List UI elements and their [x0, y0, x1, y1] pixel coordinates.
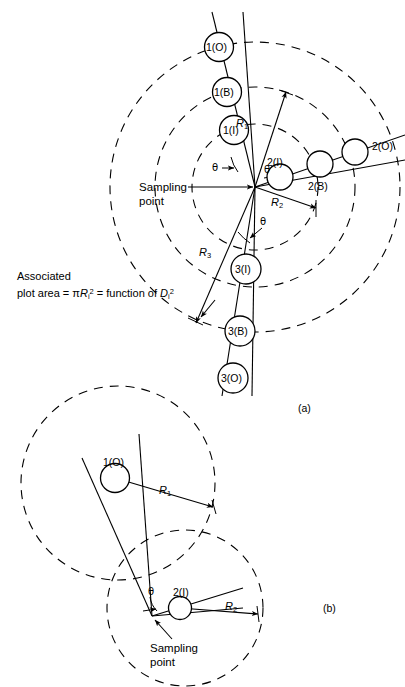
- annotation-mid: = function of: [94, 287, 160, 299]
- diagram-canvas: [0, 0, 405, 687]
- theta3-arc: [238, 232, 250, 243]
- tree-circle-2B: [307, 151, 333, 177]
- tree-label-2B: 2(B): [308, 180, 328, 193]
- theta-label-b: θ: [148, 586, 154, 599]
- sampling-point-line2-b: point: [150, 656, 175, 668]
- theta3-tick: [250, 228, 262, 238]
- R1-end-tick: [279, 90, 293, 95]
- sampling-point-label-a: Samplingpoint: [139, 180, 187, 208]
- tree-circle-b-2I: [169, 597, 192, 620]
- radius-label-R2-a: R2: [271, 196, 283, 210]
- tree-label-1B: 1(B): [214, 86, 234, 99]
- panel-b-graphics: [21, 386, 263, 686]
- annotation-var-D-sup: 2: [170, 287, 174, 296]
- panel-label-a: (a): [298, 402, 311, 415]
- sampling-point-line1-a: Sampling: [139, 181, 187, 193]
- tree-label-b-1O: 1(O): [103, 456, 124, 469]
- annotation-var-D: D: [160, 287, 168, 299]
- radius-sub-1-b: 1: [167, 489, 171, 498]
- sampling-point-line2-a: point: [139, 195, 164, 207]
- R2-arrow: [255, 187, 316, 208]
- branch3-ray-right: [252, 187, 255, 396]
- tree-label-3I: 3(I): [235, 263, 251, 276]
- annotation-prefix: plot area = π: [17, 287, 80, 299]
- theta-label-a-3: θ: [260, 216, 266, 229]
- annotation-leader: [201, 300, 215, 317]
- tree-label-b-2I: 2(I): [173, 586, 189, 599]
- tree-label-1O: 1(O): [206, 41, 227, 54]
- radius-sub-3: 3: [207, 251, 211, 260]
- annotation-var-R: R: [80, 287, 88, 299]
- panel-label-b: (b): [323, 602, 336, 615]
- radius-sub-2: 2: [279, 201, 283, 210]
- radius-label-R1-b: R1: [159, 484, 171, 498]
- tree-label-2O: 2(O): [372, 140, 393, 153]
- radius-label-R3-a: R3: [199, 246, 211, 260]
- theta-label-a-2: θ: [264, 164, 270, 177]
- annotation-formula: plot area = πRi2 = function of Di2: [17, 286, 174, 302]
- sampling-point-label-b: Samplingpoint: [150, 641, 198, 669]
- radius-label-R1-a: R1: [236, 117, 248, 131]
- figure-root: 1(O) 1(B) 1(I) 2(I) 2(B) 2(O) 3(I) 3(B) …: [0, 0, 405, 687]
- radius-label-R2-b: R2: [225, 600, 237, 614]
- radius-sub-2-b: 2: [233, 605, 237, 614]
- sampling-point-line1-b: Sampling: [150, 642, 198, 654]
- tree-circle-2O: [342, 139, 368, 165]
- tree-label-3B: 3(B): [228, 325, 248, 338]
- tree-label-3O: 3(O): [221, 372, 242, 385]
- theta1-arc: [231, 157, 238, 172]
- theta-label-a-1: θ: [212, 162, 218, 175]
- sampling-point-leader-b: [155, 620, 172, 639]
- annotation-line1: Associated: [17, 269, 71, 284]
- radius-sub-1: 1: [244, 122, 248, 131]
